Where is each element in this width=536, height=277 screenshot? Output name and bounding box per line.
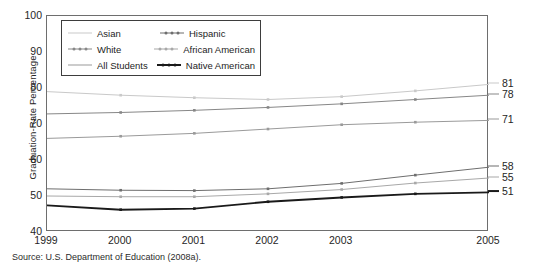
figure-container: Graduation-Rate Percentage 4050607080901… [0, 0, 536, 277]
legend-row: All StudentsNative American [68, 57, 255, 73]
x-axis-tick-2000: 2000 [108, 234, 131, 246]
legend-item-native-american: Native American [157, 60, 255, 71]
legend-row: WhiteAfrican American [68, 41, 255, 57]
chart-legend: AsianHispanicWhiteAfrican AmericanAll St… [61, 20, 261, 76]
x-axis-tick-labels: 199920002001200220032005 [0, 234, 536, 250]
x-axis-tick-1999: 1999 [34, 234, 57, 246]
legend-swatch-icon [68, 60, 92, 70]
end-label-all-students: 71 [502, 113, 514, 125]
legend-label: Native American [186, 60, 255, 71]
legend-label: White [97, 44, 121, 55]
series-leader-line [488, 177, 499, 178]
source-note: Source: U.S. Department of Education (20… [12, 252, 201, 262]
series-leader-line [488, 119, 499, 120]
legend-swatch-icon [160, 28, 184, 38]
legend-item-african-american: African American [154, 44, 255, 55]
x-axis-tick-2002: 2002 [255, 234, 278, 246]
legend-swatch-icon [68, 28, 92, 38]
legend-swatch-icon [157, 60, 181, 70]
x-axis-tick-2005: 2005 [476, 234, 499, 246]
legend-swatch-icon [154, 44, 178, 54]
series-leader-line [488, 83, 499, 84]
end-label-african-american: 55 [502, 171, 514, 183]
legend-item-all-students: All Students [68, 60, 157, 71]
legend-item-asian: Asian [68, 28, 160, 39]
legend-item-white: White [68, 44, 154, 55]
legend-row: AsianHispanic [68, 25, 255, 41]
legend-label: African American [183, 44, 255, 55]
legend-label: All Students [97, 60, 148, 71]
legend-label: Asian [97, 28, 121, 39]
series-leader-line [488, 94, 499, 95]
x-axis-tick-2003: 2003 [329, 234, 352, 246]
x-axis-tick-2001: 2001 [182, 234, 205, 246]
end-label-native-american: 51 [502, 185, 514, 197]
series-leader-line [488, 166, 499, 167]
end-label-white: 78 [502, 88, 514, 100]
legend-item-hispanic: Hispanic [160, 28, 225, 39]
legend-label: Hispanic [189, 28, 225, 39]
legend-swatch-icon [68, 44, 92, 54]
series-leader-line [488, 190, 499, 192]
